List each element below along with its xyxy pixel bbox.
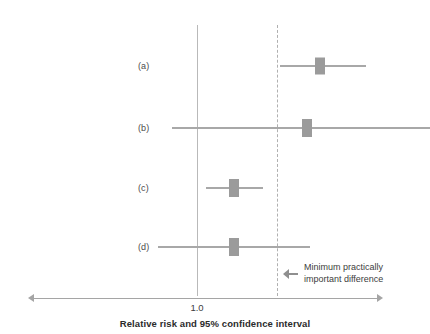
row-label-a: (a) <box>138 61 149 71</box>
forest-plot-figure: (a) (b) (c) (d) Minimum practically impo… <box>0 0 430 334</box>
point-estimate-marker-d <box>229 238 239 256</box>
confidence-interval-line-b <box>172 127 430 129</box>
mpid-annotation: Minimum practically important difference <box>283 262 383 285</box>
row-label-b: (b) <box>138 123 149 133</box>
mpid-annotation-line-1: Minimum practically <box>304 262 383 272</box>
mpid-annotation-line-2: important difference <box>304 274 383 284</box>
x-axis-line <box>32 298 380 299</box>
null-effect-reference-line <box>197 25 198 296</box>
x-axis-caption: Relative risk and 95% confidence interva… <box>0 318 430 329</box>
row-label-d: (d) <box>138 242 149 252</box>
x-axis-left-arrowhead-icon <box>28 294 34 302</box>
row-label-c: (c) <box>138 183 149 193</box>
minimum-important-difference-reference-line <box>277 25 278 296</box>
x-axis-right-arrowhead-icon <box>377 294 383 302</box>
point-estimate-marker-b <box>302 119 312 137</box>
left-arrow-icon <box>283 269 298 279</box>
point-estimate-marker-a <box>315 58 325 75</box>
mpid-annotation-text: Minimum practically important difference <box>304 262 383 285</box>
x-axis-tick-label-1: 1.0 <box>190 302 203 313</box>
point-estimate-marker-c <box>229 179 239 197</box>
